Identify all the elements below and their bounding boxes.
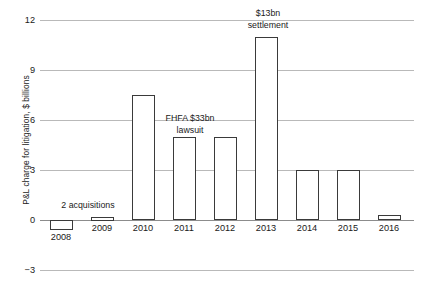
bar-2013: [255, 37, 278, 220]
plot-area: 129630−320082009201020112012201320142015…: [40, 0, 424, 304]
bar-2016: [378, 215, 401, 220]
gridline-9: 9: [40, 70, 414, 71]
y-axis-tick-label: 3: [30, 165, 35, 175]
annotation-line: 2 acquisitions: [61, 200, 114, 212]
x-axis-label-2009: 2009: [92, 223, 112, 233]
y-axis-tick-label: 0: [30, 215, 35, 225]
y-axis-tick-label: 12: [25, 15, 35, 25]
x-axis-label-2008: 2008: [51, 232, 71, 242]
y-axis-tick-label: 9: [30, 65, 35, 75]
x-axis-label-2014: 2014: [297, 223, 317, 233]
x-axis-label-2016: 2016: [379, 223, 399, 233]
x-axis-label-2015: 2015: [338, 223, 358, 233]
bar-2010: [132, 95, 155, 220]
y-axis-tick-label: 6: [30, 115, 35, 125]
x-axis-label-2013: 2013: [256, 223, 276, 233]
litigation-charge-bar-chart: P&L charge for litigation, $ billions 12…: [0, 0, 424, 304]
bar-2011: [173, 137, 196, 220]
gridline-6: 6: [40, 120, 414, 121]
annotation-line: FHFA $33bn: [166, 113, 215, 125]
bar-2008: [50, 220, 73, 230]
annotation-acquisitions: 2 acquisitions: [61, 200, 114, 212]
gridline--3: −3: [40, 270, 414, 271]
annotation-fhfa-lawsuit: FHFA $33bnlawsuit: [166, 113, 215, 136]
y-axis-tick-label: −3: [25, 265, 35, 275]
x-axis-label-2012: 2012: [215, 223, 235, 233]
bar-2009: [91, 217, 114, 221]
annotation-line: settlement: [248, 20, 289, 32]
annotation-settlement: $13bnsettlement: [248, 8, 289, 31]
annotation-line: lawsuit: [166, 125, 215, 137]
x-axis-label-2011: 2011: [174, 223, 194, 233]
bar-2014: [296, 170, 319, 220]
bar-2015: [337, 170, 360, 220]
x-axis-label-2010: 2010: [133, 223, 153, 233]
gridline-12: 12: [40, 20, 414, 21]
bar-2012: [214, 137, 237, 220]
annotation-line: $13bn: [248, 8, 289, 20]
